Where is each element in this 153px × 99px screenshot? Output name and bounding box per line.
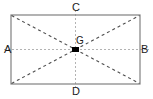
geometry-diagram: A B C D G (0, 0, 153, 99)
label-b: B (141, 44, 148, 55)
label-centroid-g: G (76, 36, 84, 46)
centroid-marker (72, 47, 79, 52)
label-c: C (72, 2, 80, 13)
label-a: A (4, 44, 11, 55)
label-d: D (72, 86, 80, 97)
